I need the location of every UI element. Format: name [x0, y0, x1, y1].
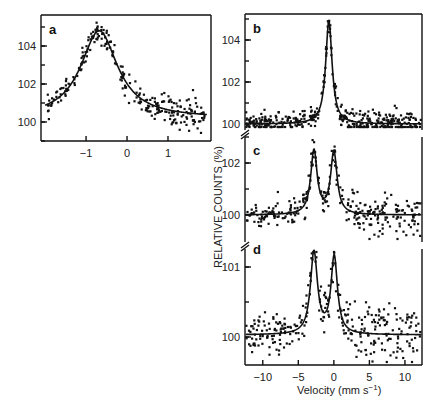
panel-c-label: c [253, 143, 260, 158]
panel-d-data-points [245, 251, 421, 363]
x-tick-label: 1 [165, 147, 171, 159]
y-tick-label: 102 [222, 157, 240, 169]
x-tick-label: 0 [124, 147, 130, 159]
panel-b-label: b [253, 21, 261, 36]
panel-a-label: a [49, 22, 57, 37]
panel-b-fit-curve [246, 21, 422, 123]
x-tick-label: 0 [331, 371, 337, 383]
x-axis-title: Velocity (mm s−1) [297, 383, 381, 396]
y-tick-label: 100 [222, 331, 240, 343]
panel-a-data-points [47, 22, 206, 134]
panel-c-chart: 100102 [222, 137, 422, 251]
panel-c-frame [241, 137, 422, 251]
y-tick-label: 100 [222, 118, 240, 130]
panel-c-y-axis: 100102 [222, 137, 251, 221]
panel-d-x-axis: −10−50510 [253, 360, 411, 383]
panel-a-chart: 100102104−101 [18, 15, 211, 159]
axis-break-mark [241, 130, 249, 136]
y-tick-label: 104 [18, 40, 36, 52]
y-tick-label: 102 [18, 78, 36, 90]
x-tick-label: −10 [253, 371, 272, 383]
x-tick-label: 5 [366, 371, 372, 383]
x-tick-label: 10 [399, 371, 411, 383]
y-tick-label: 100 [222, 209, 240, 221]
panel-a-y-axis: 100102104 [18, 27, 47, 141]
x-tick-label: −1 [80, 147, 93, 159]
panel-c-data-points [246, 139, 422, 240]
x-tick-label: −5 [292, 371, 305, 383]
panel-a-fit-curve [45, 31, 207, 115]
y-tick-label: 100 [18, 116, 36, 128]
panel-d-fit-curve [246, 250, 422, 334]
y-tick-label: 104 [222, 34, 240, 46]
mossbauer-spectra-figure: 100102104−101 100102104 100102 100101−10… [0, 0, 436, 412]
axis-break-mark [241, 242, 249, 248]
y-tick-label: 101 [222, 261, 240, 273]
panel-d-chart: 100101−10−50510 [222, 249, 422, 383]
panel-b-chart: 100102104 [222, 14, 422, 139]
panel-d-label: d [253, 242, 261, 257]
panel-a-x-axis: −101 [80, 136, 171, 159]
panel-d-y-axis: 100101 [222, 261, 251, 343]
y-tick-label: 102 [222, 76, 240, 88]
y-axis-title: RELATIVE COUNTS (%) [212, 146, 224, 268]
